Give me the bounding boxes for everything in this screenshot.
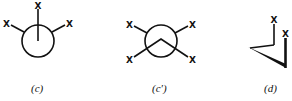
substituent-label: X — [189, 55, 196, 65]
substituent-label: X — [126, 20, 133, 30]
back-bond-right — [52, 25, 65, 32]
substituent-label: X — [35, 1, 42, 11]
back-bond-top-right — [175, 26, 188, 33]
substituent-label: X — [66, 19, 73, 29]
figure-caption: (d) — [264, 82, 277, 95]
back-bond-left — [11, 25, 24, 32]
figure-c-prime: X X X X (c′) — [126, 20, 196, 95]
back-bond-top-left — [134, 26, 147, 33]
figure-d: X X (d) — [248, 15, 289, 95]
horizontal-bond — [250, 45, 274, 48]
wedge-bond — [248, 47, 286, 68]
newman-circle — [145, 25, 177, 57]
front-bonds-chevron — [134, 39, 188, 57]
figure-caption: (c′) — [152, 82, 167, 95]
figure-caption: (c) — [31, 82, 44, 95]
substituent-label: X — [282, 29, 289, 39]
substituent-label: X — [3, 19, 10, 29]
substituent-label: X — [271, 15, 278, 25]
substituent-label: X — [126, 55, 133, 65]
diagram-canvas: X X X (c) X X X X (c′) X X (d) — [0, 0, 292, 101]
figure-c: X X X (c) — [3, 1, 73, 95]
substituent-label: X — [189, 20, 196, 30]
